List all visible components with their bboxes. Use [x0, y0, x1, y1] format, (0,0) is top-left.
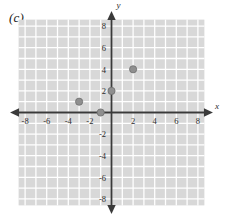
figure-panel: (c) -8-6-4-224688642-2-4-6-8xy	[0, 0, 235, 217]
x-tick-label: -6	[43, 116, 50, 126]
y-tick-label: -2	[99, 129, 106, 139]
y-tick-label: 2	[102, 86, 106, 96]
x-tick-label: 8	[196, 116, 200, 126]
data-point	[76, 98, 83, 105]
x-tick-label: 4	[153, 116, 158, 126]
y-tick-label: -8	[99, 194, 106, 204]
coordinate-plane: -8-6-4-224688642-2-4-6-8xy	[0, 0, 235, 217]
y-axis-label: y	[116, 0, 121, 10]
y-tick-label: 8	[102, 21, 106, 31]
x-tick-label: 6	[174, 116, 178, 126]
data-point	[97, 109, 104, 116]
x-tick-label: -4	[65, 116, 73, 126]
y-tick-label: -6	[99, 173, 106, 183]
y-tick-label: 6	[102, 43, 106, 53]
data-point	[108, 87, 115, 94]
x-axis-label: x	[214, 101, 219, 111]
scatter-plot-svg: -8-6-4-224688642-2-4-6-8xy	[0, 0, 235, 217]
y-tick-label: -4	[99, 151, 107, 161]
data-point	[130, 66, 137, 73]
x-tick-label: 2	[131, 116, 135, 126]
x-tick-label: -2	[86, 116, 93, 126]
x-tick-label: -8	[22, 116, 29, 126]
